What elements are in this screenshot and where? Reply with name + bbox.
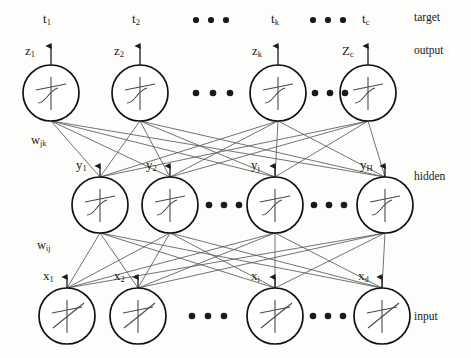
input-label-2: x2 [114, 269, 125, 284]
network-graphics [0, 0, 471, 358]
neuron-hidden-H [357, 177, 413, 233]
ellipsis-hidden-right [311, 202, 348, 209]
ellipsis-target-row [193, 17, 229, 23]
hidden-neurons [72, 177, 413, 233]
target-label-2: t2 [132, 12, 140, 27]
input-label-d: xd [358, 269, 369, 284]
neuron-hidden-1 [72, 177, 128, 233]
layer-label-target: target [414, 12, 440, 24]
hidden-label-H: yH [360, 158, 373, 173]
target-label-1: t1 [43, 12, 51, 27]
output-neurons [23, 65, 396, 121]
neuron-input-1 [39, 288, 95, 344]
layer-label-output: output [414, 45, 443, 57]
neuron-input-d [354, 288, 410, 344]
ellipsis-input-right [310, 313, 347, 320]
output-arrows [51, 46, 368, 65]
ellipsis-hidden-left [206, 202, 243, 209]
ellipsis-dots [189, 17, 349, 319]
neuron-output-c [340, 65, 396, 121]
input-label-i: xi [251, 269, 260, 284]
neuron-input-i [247, 288, 303, 344]
output-label-2: z2 [114, 44, 124, 59]
target-label-c: tc [362, 12, 369, 27]
hidden-to-output-connections [51, 121, 385, 177]
output-label-k: zk [252, 44, 262, 59]
ellipsis-input-left [189, 313, 228, 320]
layer-label-input: input [414, 311, 438, 323]
layer-label-hidden: hidden [414, 171, 445, 183]
neuron-output-2 [112, 65, 168, 121]
ellipsis-output-left [193, 90, 234, 97]
output-label-c: Zc [342, 44, 354, 59]
neuron-input-2 [110, 288, 166, 344]
ellipsis-target-row-right [310, 17, 346, 23]
output-label-1: z1 [25, 44, 35, 59]
target-label-k: tk [271, 12, 279, 27]
neural-network-figure: t1 t2 tk tc z1 z2 zk Zc y1 y2 yj yH x1 x… [0, 0, 471, 358]
weight-label-ij: wij [37, 239, 50, 253]
neuron-output-k [250, 65, 306, 121]
hidden-label-2: y2 [146, 158, 157, 173]
neuron-hidden-2 [142, 177, 198, 233]
input-label-1: x1 [43, 269, 54, 284]
ellipsis-output-right [312, 90, 349, 97]
weight-label-jk: wjk [31, 134, 46, 148]
hidden-label-1: y1 [76, 158, 87, 173]
neuron-output-1 [23, 65, 79, 121]
neuron-hidden-j [247, 177, 303, 233]
hidden-label-j: yj [251, 158, 260, 173]
